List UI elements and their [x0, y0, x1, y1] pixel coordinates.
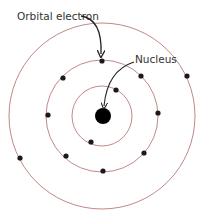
nucleus-label: Nucleus — [135, 53, 177, 65]
electron — [100, 168, 105, 173]
electron — [17, 155, 22, 160]
electron — [99, 58, 104, 63]
electron — [155, 110, 160, 115]
electron — [113, 87, 118, 92]
electron — [88, 139, 93, 144]
orbital-electron-label: Orbital electron — [17, 10, 99, 22]
electron — [141, 150, 146, 155]
electron — [63, 153, 68, 158]
electron — [184, 73, 189, 78]
electron — [60, 75, 65, 80]
nucleus-arrow — [104, 62, 134, 106]
electron — [45, 112, 50, 117]
atom-diagram: Orbital electron Nucleus — [0, 0, 203, 219]
electron — [138, 73, 143, 78]
nucleus — [95, 108, 111, 124]
